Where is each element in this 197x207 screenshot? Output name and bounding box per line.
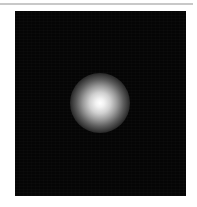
bright-point-source — [70, 73, 130, 133]
image-frame — [15, 11, 186, 196]
top-divider — [0, 3, 193, 5]
